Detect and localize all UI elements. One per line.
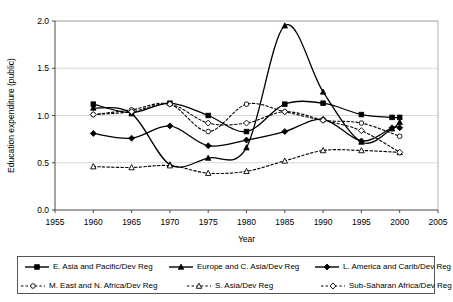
series-4: [91, 148, 403, 176]
x-tick-label: 1965: [122, 217, 141, 227]
legend-item[interactable]: Sub-Saharan Africa/Dev Reg: [314, 276, 432, 295]
legend-row: E. Asia and Pacific/Dev RegEurope and C.…: [18, 257, 434, 276]
y-tick-label: 1.5: [37, 63, 49, 73]
legend-symbol-filled-square: [24, 261, 50, 273]
x-tick-label: 2000: [390, 217, 409, 227]
legend-label: L. America and Carib/Dev Reg: [343, 262, 451, 271]
marker-triangle-open: [129, 165, 134, 170]
marker-diamond-open: [330, 283, 336, 289]
x-tick-label: 1960: [84, 217, 103, 227]
legend-symbol-filled-diamond: [314, 261, 340, 273]
y-axis-title: Education expenditure (public): [6, 58, 16, 173]
legend-symbol-open-diamond: [320, 280, 346, 292]
marker-diamond: [282, 129, 288, 135]
marker-diamond-open: [282, 109, 288, 115]
marker-triangle: [244, 145, 249, 150]
marker-circle-open: [359, 121, 364, 126]
x-tick-label: 1970: [160, 217, 179, 227]
x-axis-title: Year: [238, 234, 255, 244]
marker-diamond: [205, 143, 211, 149]
legend-symbol-open-triangle: [186, 280, 212, 292]
marker-diamond: [167, 123, 173, 129]
marker-circle-open: [397, 134, 402, 139]
x-tick-label: 1990: [314, 217, 333, 227]
marker-diamond-open: [244, 120, 250, 126]
legend-symbol-filled-triangle: [168, 261, 194, 273]
x-tick-label: 1955: [46, 217, 65, 227]
legend-item[interactable]: S. Asia/Dev Reg: [168, 276, 314, 295]
legend-label: S. Asia/Dev Reg: [215, 281, 273, 290]
chart-canvas: 0.00.51.01.52.01955196019651970197519801…: [0, 0, 453, 248]
marker-circle-open: [31, 283, 36, 288]
legend-label: Sub-Saharan Africa/Dev Reg: [349, 281, 452, 290]
legend-label: M. East and N. Africa/Dev Reg: [49, 281, 158, 290]
y-tick-label: 0.0: [37, 205, 49, 215]
line-chart: 0.00.51.01.52.01955196019651970197519801…: [0, 0, 453, 248]
y-tick-label: 2.0: [37, 16, 49, 26]
marker-square: [244, 129, 249, 134]
marker-square: [283, 102, 288, 107]
legend-label: E. Asia and Pacific/Dev Reg: [53, 262, 153, 271]
marker-square: [321, 101, 326, 106]
legend-item[interactable]: Europe and C. Asia/Dev Reg: [168, 257, 314, 276]
series-1: [91, 23, 403, 167]
marker-diamond-open: [205, 120, 211, 126]
chart-screenshot: 0.00.51.01.52.01955196019651970197519801…: [0, 0, 453, 302]
marker-diamond: [324, 264, 330, 270]
legend-item[interactable]: E. Asia and Pacific/Dev Reg: [18, 257, 168, 276]
marker-diamond-open: [358, 128, 364, 134]
y-tick-label: 0.5: [37, 158, 49, 168]
marker-diamond: [90, 130, 96, 136]
legend-symbol-open-circle: [20, 280, 46, 292]
marker-square: [206, 113, 211, 118]
legend-row: M. East and N. Africa/Dev RegS. Asia/Dev…: [18, 276, 434, 295]
legend-item[interactable]: L. America and Carib/Dev Reg: [314, 257, 432, 276]
x-tick-label: 1975: [199, 217, 218, 227]
marker-diamond: [129, 135, 135, 141]
marker-diamond-open: [90, 112, 96, 118]
marker-square: [390, 115, 395, 120]
x-tick-label: 1980: [237, 217, 256, 227]
x-tick-label: 1995: [352, 217, 371, 227]
marker-diamond: [397, 125, 403, 131]
y-tick-label: 1.0: [37, 111, 49, 121]
legend-item[interactable]: M. East and N. Africa/Dev Reg: [18, 276, 168, 295]
chart-legend: E. Asia and Pacific/Dev RegEurope and C.…: [17, 256, 435, 294]
marker-circle-open: [244, 102, 249, 107]
x-tick-label: 1985: [275, 217, 294, 227]
marker-square: [359, 112, 364, 117]
legend-label: Europe and C. Asia/Dev Reg: [197, 262, 299, 271]
x-tick-label: 2005: [429, 217, 448, 227]
marker-square: [35, 264, 40, 269]
marker-circle-open: [206, 129, 211, 134]
